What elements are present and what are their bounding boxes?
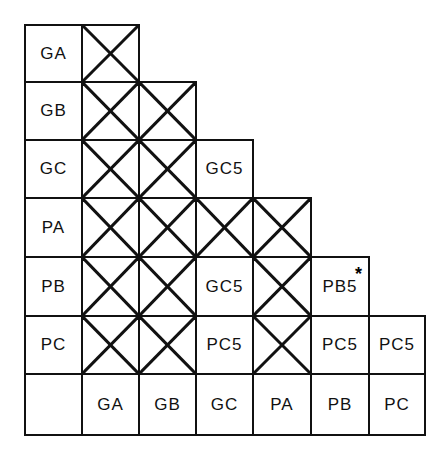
row-header-label: PB	[41, 277, 66, 297]
corner-cell	[24, 373, 83, 436]
value-cell: PC5	[195, 315, 254, 375]
row-header-label: PA	[42, 218, 65, 238]
row-header-cell: GB	[24, 81, 83, 141]
cross-icon	[83, 199, 138, 256]
column-header-cell: PA	[252, 373, 312, 436]
value-cell: GC5	[195, 256, 254, 317]
column-header-cell: GA	[81, 373, 140, 436]
row-header-cell: PB	[24, 256, 83, 317]
cross-icon	[140, 83, 195, 139]
value-label: GC5	[206, 159, 244, 179]
crossed-cell	[81, 24, 140, 83]
cross-icon	[140, 258, 195, 315]
crossed-cell	[138, 256, 197, 317]
interaction-matrix: GAGBGCPAPBPCGAGBGCPAPBPCGC5GC5PB5*PC5PC5…	[0, 0, 447, 459]
column-header-label: PB	[328, 395, 353, 415]
crossed-cell	[138, 197, 197, 258]
value-label: PC5	[379, 335, 415, 355]
crossed-cell	[81, 81, 140, 141]
cross-icon	[140, 199, 195, 256]
crossed-cell	[81, 139, 140, 199]
column-header-label: GB	[154, 395, 181, 415]
row-header-cell: PA	[24, 197, 83, 258]
asterisk-mark: *	[355, 264, 362, 285]
row-header-cell: GC	[24, 139, 83, 199]
crossed-cell	[252, 256, 312, 317]
value-cell: PC5	[368, 315, 426, 375]
crossed-cell	[138, 81, 197, 141]
row-header-cell: PC	[24, 315, 83, 375]
row-header-label: GC	[40, 159, 68, 179]
crossed-cell	[138, 139, 197, 199]
column-header-label: GC	[211, 395, 239, 415]
value-cell: PC5	[310, 315, 370, 375]
column-header-label: PA	[270, 395, 293, 415]
column-header-cell: GB	[138, 373, 197, 436]
row-header-label: GA	[40, 44, 67, 64]
cross-icon	[83, 317, 138, 373]
crossed-cell	[252, 197, 312, 258]
crossed-cell	[252, 315, 312, 375]
cross-icon	[254, 258, 310, 315]
cross-icon	[83, 141, 138, 197]
value-cell: GC5	[195, 139, 254, 199]
crossed-cell	[138, 315, 197, 375]
cross-icon	[254, 199, 310, 256]
value-label: GC5	[206, 277, 244, 297]
column-header-cell: PC	[368, 373, 426, 436]
value-cell: PB5*	[310, 256, 370, 317]
value-label: PC5	[206, 335, 242, 355]
row-header-label: GB	[40, 101, 67, 121]
column-header-cell: PB	[310, 373, 370, 436]
value-label: PB5	[322, 277, 357, 297]
cross-icon	[140, 141, 195, 197]
row-header-label: PC	[41, 335, 67, 355]
crossed-cell	[81, 256, 140, 317]
cross-icon	[254, 317, 310, 373]
cross-icon	[83, 26, 138, 81]
column-header-label: PC	[384, 395, 410, 415]
row-header-cell: GA	[24, 24, 83, 83]
crossed-cell	[195, 197, 254, 258]
column-header-label: GA	[97, 395, 124, 415]
column-header-cell: GC	[195, 373, 254, 436]
cross-icon	[140, 317, 195, 373]
cross-icon	[83, 258, 138, 315]
cross-icon	[197, 199, 252, 256]
value-label: PC5	[322, 335, 358, 355]
crossed-cell	[81, 315, 140, 375]
crossed-cell	[81, 197, 140, 258]
cross-icon	[83, 83, 138, 139]
